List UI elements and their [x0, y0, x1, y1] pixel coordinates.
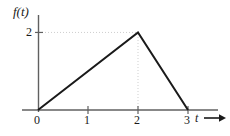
x-tick-label-0: 0	[34, 114, 40, 126]
x-tick-label-3: 3	[184, 114, 190, 126]
x-tick-label-1: 1	[84, 114, 90, 126]
y-axis-label: f(t)	[13, 5, 29, 18]
y-tick-label-2: 2	[26, 26, 32, 38]
x-tick-label-2: 2	[134, 114, 140, 126]
function-curve	[38, 32, 188, 110]
function-plot-figure: f(t) 2 0 1 2 3 t	[0, 0, 230, 136]
arrow-right-icon	[203, 112, 227, 124]
x-axis-label: t	[195, 112, 198, 124]
